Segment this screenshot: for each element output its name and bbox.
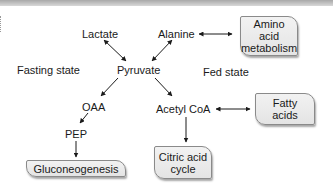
fasting-state-label: Fasting state [17,64,80,76]
arrow-lactate-pyruvate [104,40,126,61]
box-line: Fatty [272,97,298,109]
arrow-pyruvate-acetylcoa [155,78,172,96]
box-line: Amino [241,18,297,30]
node-pyruvate: Pyruvate [117,64,160,76]
node-oaa: OAA [82,101,105,113]
box-amino-acid-metabolism: Amino acid metabolism [240,16,298,56]
box-line: metabolism [241,42,297,54]
box-fatty-acids: Fatty acids [255,93,315,125]
node-pep: PEP [65,128,87,140]
fed-state-label: Fed state [203,66,249,78]
arrow-alanine-pyruvate [152,40,172,61]
box-line: acids [272,109,298,121]
box-line: cycle [159,163,207,175]
node-alanine: Alanine [158,28,195,40]
box-line: acid [241,30,297,42]
box-gluconeogenesis: Gluconeogenesis [26,160,126,177]
box-line: Gluconeogenesis [33,163,118,175]
box-citric-acid-cycle: Citric acid cycle [154,146,212,179]
arrow-oaa-pep [80,113,88,123]
node-lactate: Lactate [82,28,118,40]
box-line: Citric acid [159,151,207,163]
arrow-pyruvate-oaa [101,78,118,96]
node-acetyl-coa: Acetyl CoA [156,103,210,115]
